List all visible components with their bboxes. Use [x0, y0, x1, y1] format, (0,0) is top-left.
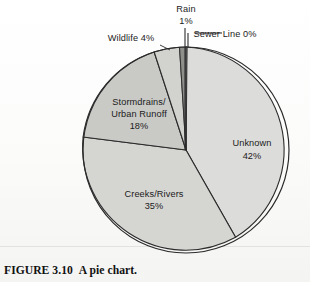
- label-stormdrains-line1: Stormdrains/: [112, 97, 166, 107]
- label-sewer-line: Sewer Line 0%: [193, 29, 256, 39]
- label-creeks-rivers-name: Creeks/Rivers: [125, 189, 184, 199]
- figure-caption-text: A pie chart.: [79, 264, 137, 277]
- label-unknown-value: 42%: [243, 151, 262, 161]
- figure-container: Rain 1% Sewer Line 0% Wildlife 4% Stormd…: [0, 0, 310, 282]
- label-creeks-rivers-value: 35%: [145, 201, 164, 211]
- label-unknown-name: Unknown: [232, 138, 271, 148]
- label-stormdrains-value: 18%: [130, 121, 149, 131]
- label-wildlife: Wildlife 4%: [108, 33, 155, 43]
- figure-caption: FIGURE 3.10A pie chart.: [4, 264, 137, 277]
- pie-chart: Rain 1% Sewer Line 0% Wildlife 4% Stormd…: [0, 0, 310, 282]
- label-stormdrains-line2: Urban Runoff: [111, 109, 167, 119]
- figure-caption-number: FIGURE 3.10: [4, 264, 73, 277]
- label-rain-value: 1%: [179, 16, 192, 26]
- label-rain-name: Rain: [176, 4, 195, 14]
